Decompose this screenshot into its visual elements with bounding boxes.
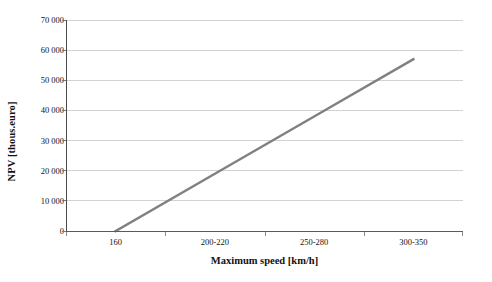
y-axis-tick-label: 0: [22, 227, 64, 236]
x-axis-tick-label: 250-280: [300, 237, 328, 248]
y-axis-tick-label: 60 000: [22, 46, 64, 55]
plot-area: [66, 20, 463, 231]
x-axis-tick-mark: [265, 232, 266, 236]
y-axis-tick-label: 40 000: [22, 106, 64, 115]
y-axis-title-label: NPV [thous.euro]: [7, 101, 18, 181]
x-axis-tick-mark: [364, 232, 365, 236]
y-axis-tick-label: 50 000: [22, 76, 64, 85]
y-axis-title: NPV [thous.euro]: [0, 0, 24, 282]
x-axis-tick-labels: 160200-220250-280300-350: [66, 237, 463, 251]
x-axis-tick-mark: [66, 232, 67, 236]
y-axis-tick-label: 20 000: [22, 166, 64, 175]
x-axis-tick-label: 200-220: [201, 237, 229, 248]
series-line-npv: [66, 20, 463, 231]
x-axis-tick-label: 160: [109, 237, 122, 248]
y-axis-tick-labels: 010 00020 00030 00040 00050 00060 00070 …: [22, 20, 64, 231]
y-axis-tick-label: 30 000: [22, 136, 64, 145]
npv-vs-max-speed-chart: NPV [thous.euro] 010 00020 00030 00040 0…: [0, 0, 492, 282]
x-axis-tick-mark: [165, 232, 166, 236]
y-axis-tick-label: 10 000: [22, 196, 64, 205]
x-axis-tick-mark: [462, 232, 463, 236]
x-axis-tick-marks: [66, 232, 463, 236]
x-axis-title: Maximum speed [km/h]: [66, 255, 463, 266]
x-axis-tick-label: 300-350: [399, 237, 427, 248]
y-axis-tick-label: 70 000: [22, 16, 64, 25]
